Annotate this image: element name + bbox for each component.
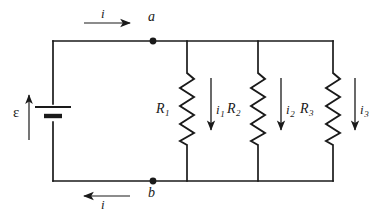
battery-symbol [35, 107, 71, 116]
node-b-dot [150, 178, 157, 185]
node-b-label: b [148, 186, 155, 200]
circuit-diagram: a b ε i i R1 R2 R3 i1 i2 i3 [0, 0, 376, 220]
current-3-label: i3 [360, 103, 368, 116]
circuit-schematic-svg [0, 0, 376, 220]
current-top-label: i [101, 7, 105, 20]
current-bottom-label: i [101, 198, 105, 211]
resistor-1-label: R1 [156, 102, 169, 116]
current-2-label: i2 [286, 103, 294, 116]
resistor-3-zigzag [326, 73, 340, 145]
resistor-3-label: R3 [300, 102, 313, 116]
emf-label: ε [13, 105, 19, 120]
current-1-label: i1 [216, 103, 224, 116]
resistor-1-zigzag [180, 73, 194, 145]
node-a-label: a [148, 10, 155, 24]
resistor-2-label: R2 [227, 102, 240, 116]
resistor-2-zigzag [251, 73, 265, 145]
node-a-dot [150, 38, 157, 45]
